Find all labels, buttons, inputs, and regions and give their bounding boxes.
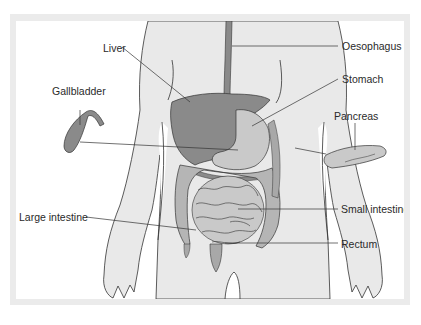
- label-rectum: Rectum: [341, 238, 377, 250]
- label-stomach: Stomach: [342, 73, 383, 85]
- label-gallbladder: Gallbladder: [52, 85, 106, 97]
- label-oesophagus: Oesophagus: [342, 40, 402, 52]
- gallbladder-shape: [64, 111, 104, 153]
- label-liver: Liver: [103, 42, 126, 54]
- diagram-panel: Liver Oesophagus Gallbladder Stomach Pan…: [16, 21, 404, 299]
- label-large-intestine: Large intestine: [19, 211, 88, 223]
- label-pancreas: Pancreas: [334, 110, 378, 122]
- diagram-frame: Liver Oesophagus Gallbladder Stomach Pan…: [10, 14, 410, 305]
- digestive-system-illustration: [16, 21, 404, 299]
- label-small-intestine: Small intestine: [341, 203, 404, 215]
- small-intestine-shape: [192, 176, 264, 244]
